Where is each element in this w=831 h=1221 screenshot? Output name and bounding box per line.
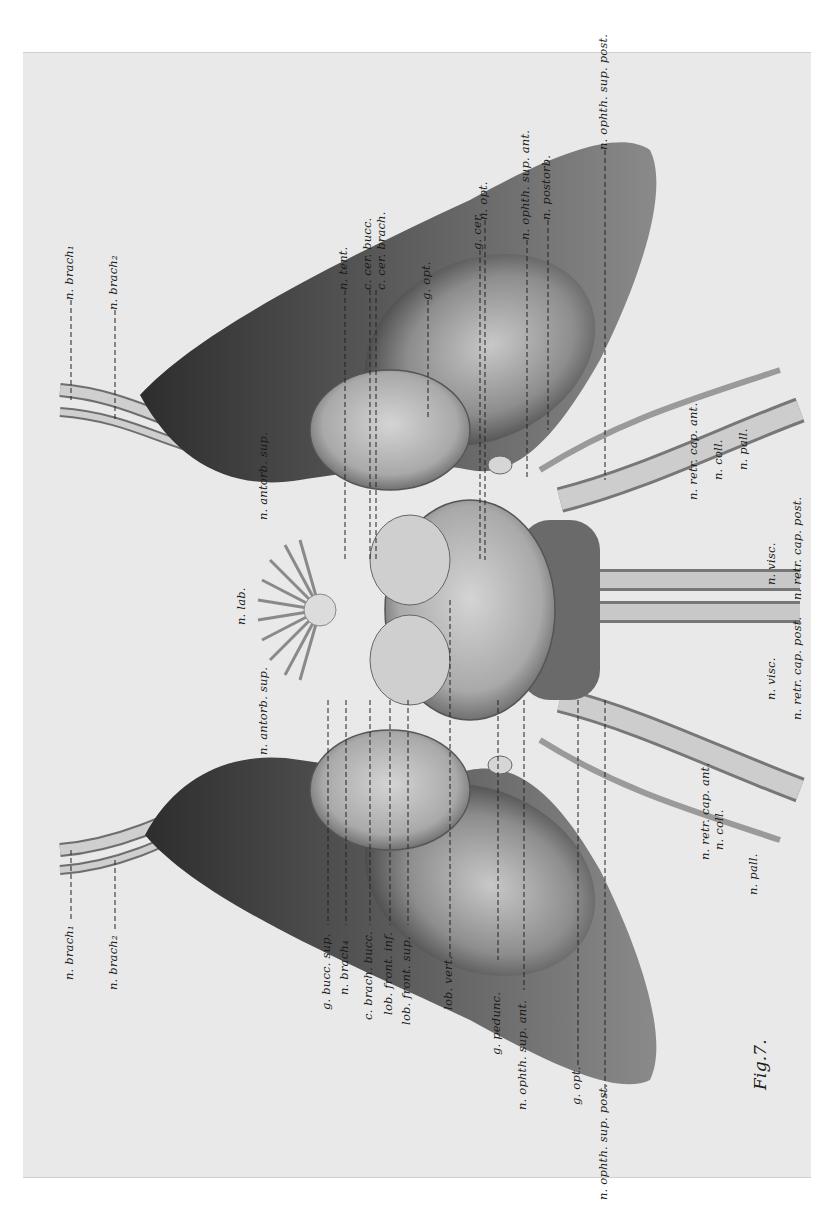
frontal-lobe [370,515,450,605]
label-n-antorb-sup-lower: n. antorb. sup. [258,667,270,755]
label-n-visc-upper: n. visc. [766,543,778,586]
label-lob-front-sup: lob. front. sup. [401,936,413,1025]
label-n-lab: n. lab. [236,587,248,625]
label-g-bucc-sup: g. bucc. sup. [321,933,333,1010]
label-n-pall-upper: n. pall. [738,428,750,470]
brain-illustration [0,0,831,1221]
label-n-retr-cap-post-lower: n. retr. cap. post. [792,617,804,720]
label-g-opt-top: g. opt. [421,261,433,300]
label-n-antorb-sup-upper: n. antorb. sup. [258,432,270,520]
label-n-brach2-bottom: n. brach₂ [108,935,120,990]
label-lob-front-inf: lob. front. inf. [383,932,395,1015]
label-n-brach4: n. brach₄ [339,940,351,995]
label-c-cer-bucc: c. cer. bucc. [362,218,374,290]
label-n-ophth-sup-ant-top: n. ophth. sup. ant. [520,130,532,240]
label-n-brach2-top: n. brach₂ [108,255,120,310]
label-n-coll-upper: n. coll. [713,439,725,480]
label-n-brach1-top: n. brach₁ [64,245,76,300]
label-n-coll-lower: n. coll. [714,809,726,850]
label-n-ophth-sup-post-bottom: n. ophth. sup. post. [598,1084,610,1200]
label-n-visc-lower: n. visc. [766,658,778,701]
label-n-retr-cap-ant-lower: n. retr. cap. ant. [700,763,712,860]
label-n-retr-cap-ant-upper: n. retr. cap. ant. [688,403,700,500]
label-n-ophth-sup-ant-bottom: n. ophth. sup. ant. [517,1000,529,1110]
label-c-brach-bucc: c. brach. bucc. [363,931,375,1020]
label-n-retr-cap-post-upper: n. retr. cap. post. [792,497,804,600]
label-g-pedunc: g. pedunc. [491,992,503,1055]
label-n-brach1-bottom: n. brach₁ [64,925,76,980]
label-n-pall-lower: n. pall. [748,853,760,895]
label-g-opt-bottom: g. opt. [571,1066,583,1105]
label-lob-vert: lob. vert. [443,956,455,1010]
label-n-tent: n. tent. [338,247,350,290]
frontal-lobe-lower [370,615,450,705]
label-n-ophth-sup-post-top: n. ophth. sup. post. [598,34,610,150]
label-n-postorb: n. postorb. [541,155,553,220]
figure-caption: Fig.7. [752,1039,769,1090]
cerebral-ganglion-top [310,370,470,490]
label-n-opt: n. opt. [478,181,490,220]
label-c-cer-brach: c. cer. brach. [376,211,388,290]
